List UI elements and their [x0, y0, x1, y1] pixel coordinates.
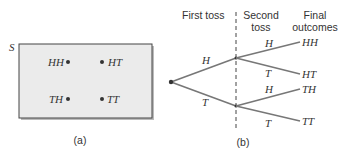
label-second-h-lower: H: [264, 83, 274, 95]
point-tt: [100, 97, 104, 101]
final-tt: TT: [302, 115, 315, 127]
point-th: [66, 97, 70, 101]
label-second-t-upper: T: [265, 67, 272, 79]
label-first-h: H: [201, 54, 211, 66]
root-node: [169, 80, 173, 84]
outcome-tt: TT: [107, 93, 120, 105]
header-second-toss-1: Second: [243, 9, 279, 21]
set-label-s: S: [9, 41, 15, 53]
sample-space-box: [19, 44, 152, 118]
point-hh: [66, 60, 70, 64]
final-ht: HT: [301, 68, 317, 80]
caption-b: (b): [237, 136, 250, 148]
outcome-ht: HT: [107, 56, 123, 68]
final-hh: HH: [301, 36, 319, 48]
header-first-toss: First toss: [182, 9, 225, 21]
final-th: TH: [302, 83, 317, 95]
label-second-t-lower: T: [265, 117, 272, 129]
label-first-t: T: [202, 96, 209, 108]
caption-a: (a): [74, 134, 87, 146]
label-second-h-upper: H: [264, 37, 274, 49]
header-final-2: outcomes: [292, 21, 338, 33]
outcome-th: TH: [49, 93, 64, 105]
header-final-1: Final: [304, 9, 327, 21]
outcome-hh: HH: [47, 56, 65, 68]
header-second-toss-2: toss: [251, 21, 270, 33]
sample-space-panel: S HH HT TH TT (a): [9, 41, 154, 146]
coin-toss-figure: S HH HT TH TT (a) First toss Second toss…: [0, 0, 344, 155]
point-ht: [100, 60, 104, 64]
tree-diagram-panel: First toss Second toss Final outcomes H …: [169, 9, 338, 148]
